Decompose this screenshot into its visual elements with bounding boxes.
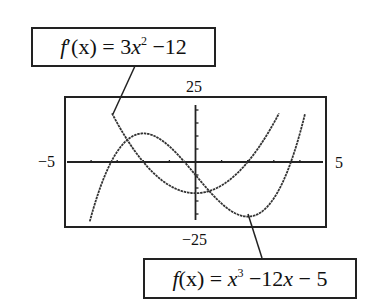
derivative-equation: f′(x) = 3x2 −12 <box>60 34 187 60</box>
derivative-label-box: f′(x) = 3x2 −12 <box>31 27 216 67</box>
ymin-label: −25 <box>182 232 207 248</box>
axes <box>65 105 326 220</box>
xmax-label: 5 <box>335 155 343 171</box>
cubic-leader-line <box>248 214 262 258</box>
ymax-label: 25 <box>186 79 202 95</box>
derivative-leader-line <box>113 66 135 114</box>
cubic-curve <box>90 113 305 221</box>
function-label-box: f(x) = x3 −12x − 5 <box>143 258 357 299</box>
function-equation: f(x) = x3 −12x − 5 <box>172 266 327 292</box>
xmin-label: −5 <box>38 154 55 170</box>
